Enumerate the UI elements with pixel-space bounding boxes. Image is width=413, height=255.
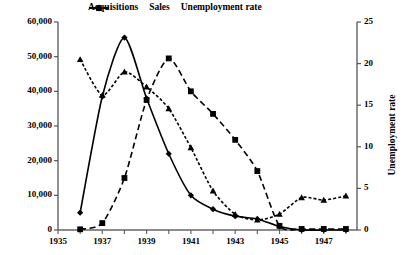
y-axis-left-tick-label: 10,000	[27, 189, 52, 199]
y-axis-right-tick-label: 15	[364, 99, 373, 109]
y-axis-left-tick-label: 40,000	[27, 85, 52, 95]
data-point-marker	[77, 56, 84, 62]
data-point-marker	[210, 111, 216, 117]
x-axis-tick-label: 1945	[263, 236, 295, 246]
data-point-marker	[99, 220, 105, 226]
y-axis-right-tick-label: 10	[364, 141, 373, 151]
data-point-marker	[254, 168, 260, 174]
data-point-marker	[99, 92, 106, 98]
data-point-marker	[321, 226, 327, 232]
y-axis-left-tick-label: 30,000	[27, 120, 52, 130]
y-axis-right-tick-label: 25	[364, 16, 373, 26]
data-point-marker	[143, 84, 150, 90]
data-point-marker	[188, 144, 195, 150]
x-axis-tick-label: 1941	[175, 236, 207, 246]
x-axis-tick-label: 1937	[86, 236, 118, 246]
chart-plot-area	[0, 0, 413, 255]
data-point-marker	[166, 151, 172, 157]
x-axis-tick-label: 1943	[219, 236, 251, 246]
y-axis-right-tick-label: 20	[364, 58, 373, 68]
data-point-marker	[210, 206, 216, 212]
data-point-marker	[144, 97, 150, 103]
series-sales	[77, 56, 349, 233]
data-point-marker	[343, 193, 350, 199]
y-axis-left-tick-label: 50,000	[27, 51, 52, 61]
x-axis-tick-label: 1939	[131, 236, 163, 246]
data-point-marker	[166, 56, 172, 62]
data-point-marker	[277, 223, 283, 229]
data-point-marker	[188, 88, 194, 94]
chart-container: Number of sales and acquisitions Unemplo…	[0, 0, 413, 255]
data-point-marker	[210, 188, 217, 194]
y-axis-right-tick-label: 5	[364, 182, 369, 192]
series-acquisitions	[77, 35, 349, 234]
data-point-marker	[276, 211, 283, 217]
data-point-marker	[299, 226, 305, 232]
series-unemployment-rate	[77, 56, 349, 222]
data-point-marker	[77, 210, 83, 216]
data-point-marker	[77, 226, 83, 232]
data-point-marker	[232, 137, 238, 143]
x-axis-tick-label: 1935	[42, 236, 74, 246]
y-axis-left-tick-label: 0	[48, 224, 53, 234]
data-point-marker	[165, 105, 172, 111]
y-axis-right-tick-label: 0	[364, 224, 369, 234]
data-point-marker	[122, 175, 128, 181]
x-axis-tick-label: 1947	[308, 236, 340, 246]
data-point-marker	[343, 226, 349, 232]
y-axis-left-tick-label: 60,000	[27, 16, 52, 26]
y-axis-left-tick-label: 20,000	[27, 155, 52, 165]
